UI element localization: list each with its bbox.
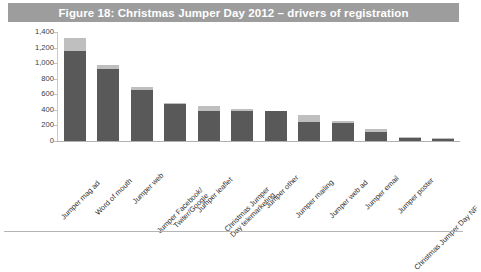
- bar-column: [365, 129, 387, 141]
- bar-column: [198, 106, 220, 141]
- y-axis-tick-label: 800: [12, 75, 54, 83]
- y-axis-tick-label: 600: [12, 90, 54, 98]
- bar-segment-primary: [432, 139, 454, 141]
- bottom-divider: [4, 231, 463, 232]
- x-axis-tick-label: Jumper Facebook/Twiter/Google: [156, 186, 211, 241]
- plot-area: 02004006008001,0001,2001,400: [0, 24, 467, 149]
- bar-segment-primary: [198, 111, 220, 141]
- bar-segment-primary: [97, 69, 119, 141]
- bar-segment-primary: [399, 138, 421, 141]
- x-axis-tick-label: Jumper web: [131, 171, 165, 205]
- x-axis-tick-label: Jumper mag ad: [59, 179, 101, 221]
- x-axis-tick-label-line: Jumper mag ad: [59, 179, 102, 222]
- bar-segment-secondary: [64, 38, 86, 50]
- y-axis-tick-label: 1,400: [12, 28, 54, 36]
- x-axis-tick-label: Christmas Jumper Day NF: [413, 205, 481, 272]
- bar-segment-primary: [64, 51, 86, 141]
- y-axis-tick-label: 1,200: [12, 44, 54, 52]
- x-axis-tick-label-line: Jumper web: [130, 171, 165, 206]
- bar-segment-primary: [231, 111, 253, 141]
- y-axis-tick-label: 400: [12, 106, 54, 114]
- bar-column: [97, 65, 119, 141]
- bar-segment-secondary: [298, 115, 320, 122]
- bar-column: [332, 121, 354, 141]
- bar-column: [64, 38, 86, 141]
- bar-column: [231, 109, 253, 141]
- bar-series-area: [58, 24, 460, 142]
- bar-segment-primary: [365, 132, 387, 141]
- x-axis-tick-label-line: Jumper email: [363, 174, 401, 212]
- bar-column: [298, 115, 320, 141]
- bar-column: [131, 87, 153, 141]
- bar-column: [265, 111, 287, 141]
- x-axis-tick-labels: Jumper mag adWord of mouthJumper webJump…: [0, 143, 467, 223]
- bar-column: [164, 103, 186, 141]
- y-axis-tick-label: 200: [12, 121, 54, 129]
- bar-segment-primary: [265, 111, 287, 141]
- bar-segment-primary: [164, 104, 186, 141]
- figure-title-bar: Figure 18: Christmas Jumper Day 2012 – d…: [8, 3, 459, 22]
- x-axis-tick-label-line: Jumper poster: [395, 176, 435, 216]
- x-axis-tick-label-line: Christmas Jumper Day NF: [412, 204, 480, 272]
- y-axis-tick-label: 1,000: [12, 59, 54, 67]
- y-axis-tick-labels: 02004006008001,0001,2001,400: [12, 24, 54, 149]
- x-axis-tick-label: Jumper email: [364, 174, 401, 211]
- bar-segment-primary: [332, 123, 354, 141]
- bar-segment-primary: [131, 90, 153, 141]
- x-axis-tick-label: Jumper poster: [396, 176, 435, 215]
- bar-column: [432, 138, 454, 141]
- bar-column: [399, 137, 421, 141]
- figure-title-text: Figure 18: Christmas Jumper Day 2012 – d…: [58, 7, 408, 19]
- bar-segment-primary: [298, 122, 320, 141]
